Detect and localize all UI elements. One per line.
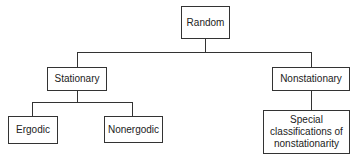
node-random: Random [181, 6, 230, 39]
connector-root-horizontal [77, 52, 312, 53]
node-stationary: Stationary [47, 67, 107, 91]
connector-to-ergodic [32, 102, 33, 116]
node-nonstationary-label: Nonstationary [280, 73, 342, 85]
node-ergodic: Ergodic [8, 116, 58, 144]
node-ergodic-label: Ergodic [16, 124, 50, 136]
node-special-classifications-label: Special classifications of nonstationari… [270, 114, 343, 150]
connector-to-nonstationary [311, 52, 312, 67]
connector-stationary-down [77, 90, 78, 102]
connector-nonstationary-down [311, 90, 312, 110]
connector-root-down [205, 38, 206, 52]
node-special-classifications: Special classifications of nonstationari… [263, 110, 350, 154]
connector-to-nonergodic [132, 102, 133, 116]
node-random-label: Random [187, 17, 225, 29]
connector-stationary-horizontal [32, 102, 133, 103]
node-stationary-label: Stationary [54, 73, 99, 85]
node-nonergodic: Nonergodic [104, 116, 163, 143]
connector-to-stationary [77, 52, 78, 67]
node-nonstationary: Nonstationary [272, 67, 350, 91]
node-nonergodic-label: Nonergodic [108, 124, 159, 136]
